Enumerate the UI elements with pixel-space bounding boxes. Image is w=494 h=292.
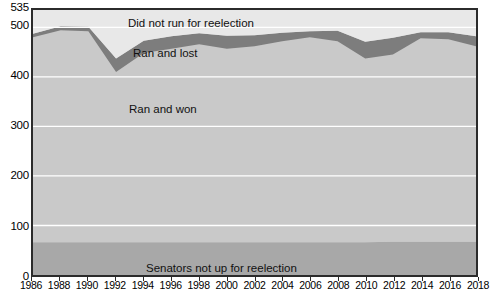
chart-series-layer	[33, 10, 476, 275]
y-tick-label-300: 300	[2, 120, 29, 131]
x-tick-label-2016: 2016	[435, 279, 465, 291]
x-tick-label-1986: 1986	[16, 279, 46, 291]
x-tick-label-2018: 2018	[463, 279, 493, 291]
y-tick-label-100: 100	[2, 221, 29, 232]
x-tick-label-1992: 1992	[100, 279, 130, 291]
x-tick-label-2014: 2014	[407, 279, 437, 291]
x-tick-label-1996: 1996	[156, 279, 186, 291]
x-tick-label-2010: 2010	[351, 279, 381, 291]
x-tick-label-2004: 2004	[267, 279, 297, 291]
x-tick-label-2006: 2006	[295, 279, 325, 291]
series-label-ran-and-won: Ran and won	[129, 103, 197, 115]
x-tick-label-2002: 2002	[240, 279, 270, 291]
series-label-did-not-run: Did not run for reelection	[128, 17, 254, 29]
y-tick-label-500: 500	[2, 20, 29, 31]
y-tick-label-400: 400	[2, 70, 29, 81]
y-axis: 0100200300400500535	[0, 0, 29, 292]
y-tick-label-535: 535	[2, 2, 29, 13]
x-tick-label-2012: 2012	[379, 279, 409, 291]
area-bands-group	[33, 10, 476, 275]
area-band-1	[33, 30, 476, 242]
x-tick-label-2000: 2000	[212, 279, 242, 291]
x-tick-label-1994: 1994	[128, 279, 158, 291]
x-tick-label-1998: 1998	[184, 279, 214, 291]
x-axis: 1986198819901992199419961998200020022004…	[31, 277, 478, 292]
stacked-area-chart: 0100200300400500535 Did not run for reel…	[0, 0, 494, 292]
x-tick-label-1988: 1988	[44, 279, 74, 291]
y-tick-label-200: 200	[2, 170, 29, 181]
x-tick-label-2008: 2008	[323, 279, 353, 291]
series-label-ran-and-lost: Ran and lost	[133, 47, 198, 59]
x-tick-label-1990: 1990	[72, 279, 102, 291]
plot-area: Did not run for reelection Ran and lost …	[31, 8, 478, 277]
series-label-senators-not-up: Senators not up for reelection	[146, 262, 297, 274]
